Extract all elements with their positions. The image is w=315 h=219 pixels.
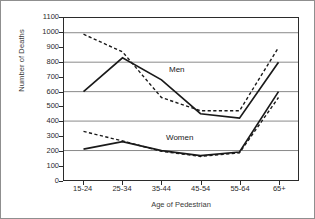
- x-tick-mark: [240, 181, 241, 185]
- y-tick-label: 400: [25, 117, 59, 125]
- y-tick-label: 1100: [25, 13, 59, 21]
- x-axis-tick-labels: 15-2425-3435-4445-5455-6465+: [63, 184, 299, 198]
- x-tick-mark: [122, 181, 123, 185]
- chart-lines: [64, 18, 298, 180]
- y-tick-label: 800: [25, 58, 59, 66]
- y-tick-label: 100: [25, 162, 59, 170]
- series-label-women: Women: [166, 133, 193, 142]
- y-tick-label: 200: [25, 147, 59, 155]
- plot-area: [63, 17, 299, 181]
- x-tick-label-65plus: 65+: [256, 184, 302, 193]
- y-tick-label: 600: [25, 88, 59, 96]
- x-tick-mark: [161, 181, 162, 185]
- x-axis-title: Age of Pedestrian: [63, 200, 299, 209]
- x-tick-mark: [201, 181, 202, 185]
- y-tick-label: 900: [25, 43, 59, 51]
- y-tick-label: 500: [25, 102, 59, 110]
- y-tick-label: 700: [25, 73, 59, 81]
- y-tick-mark: [59, 181, 63, 182]
- chart-figure: Number of Deaths 01002003004005006007008…: [0, 0, 315, 219]
- y-axis-tick-labels: 010020030040050060070080090010001100: [21, 17, 59, 181]
- y-tick-label: 0: [25, 177, 59, 185]
- series-label-men: Men: [169, 65, 185, 74]
- y-tick-label: 300: [25, 132, 59, 140]
- y-tick-label: 1000: [25, 28, 59, 36]
- series-line-women-solid: [84, 92, 279, 156]
- x-tick-mark: [83, 181, 84, 185]
- x-tick-mark: [279, 181, 280, 185]
- series-line-women-dashed: [84, 98, 279, 157]
